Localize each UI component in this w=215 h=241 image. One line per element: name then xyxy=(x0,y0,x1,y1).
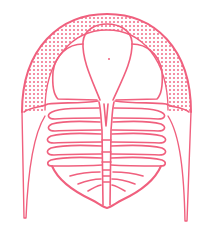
genal-spine-left xyxy=(22,112,45,218)
genal-spine-right xyxy=(168,112,191,221)
thorax-left xyxy=(47,108,102,166)
dotted-border xyxy=(0,0,215,120)
glabella-node xyxy=(108,58,110,60)
glabella xyxy=(83,24,132,100)
trilobite-illustration xyxy=(0,0,215,241)
pygidium xyxy=(52,166,161,208)
thorax-right xyxy=(111,108,166,166)
